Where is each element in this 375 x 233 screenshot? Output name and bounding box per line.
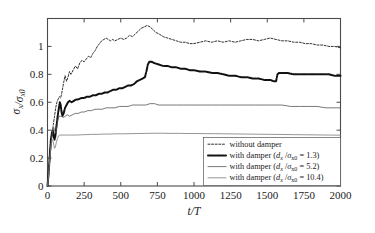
x-axis-tick-labels: 025050075010001250150017502000 <box>45 189 352 201</box>
y-axis-label: σx/σx0 <box>10 89 27 114</box>
y-tick-label: 0 <box>38 180 44 192</box>
legend-label-0: without damper <box>230 140 283 149</box>
y-tick-label: 0.8 <box>30 68 44 80</box>
legend: without damperwith damper (dx /σx0 = 1.3… <box>204 138 341 186</box>
legend-label-1: with damper (dx /σx0 = 1.3) <box>230 151 320 161</box>
x-tick-label: 250 <box>76 189 93 201</box>
line-chart-svg: 025050075010001250150017502000 00.20.40.… <box>0 0 375 233</box>
x-tick-label: 1000 <box>183 189 206 201</box>
x-tick-label: 0 <box>45 189 51 201</box>
x-axis-label: t/T <box>188 205 202 217</box>
chart-figure: 025050075010001250150017502000 00.20.40.… <box>0 0 375 233</box>
y-tick-label: 0.6 <box>30 96 44 108</box>
y-tick-label: 1 <box>38 40 44 52</box>
x-tick-label: 750 <box>149 189 166 201</box>
y-tick-label: 0.2 <box>30 152 44 164</box>
x-tick-label: 1250 <box>220 189 243 201</box>
svg-text:σx/σx0: σx/σx0 <box>10 89 27 114</box>
legend-label-3: with damper (dx /σx0 = 10.4) <box>230 173 324 183</box>
x-tick-label: 1500 <box>256 189 279 201</box>
y-tick-label: 0.4 <box>30 124 44 136</box>
legend-label-2: with damper (dx /σx0 = 5.2) <box>230 162 320 172</box>
x-tick-label: 2000 <box>330 189 353 201</box>
x-tick-label: 1750 <box>293 189 316 201</box>
y-axis-tick-labels: 00.20.40.60.81 <box>30 40 44 192</box>
x-tick-label: 500 <box>113 189 130 201</box>
